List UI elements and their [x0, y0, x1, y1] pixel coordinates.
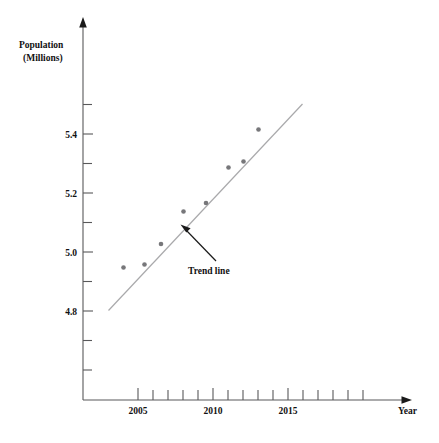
data-point: [241, 159, 246, 164]
annotation-arrowhead: [181, 225, 191, 233]
x-axis-tick-labels: 2005 2010 2015: [129, 406, 298, 416]
y-tick-label-4-8: 4.8: [65, 307, 77, 317]
data-point: [256, 127, 261, 132]
data-point: [159, 242, 164, 247]
y-axis-ticks: [83, 105, 93, 371]
annotation-arrow-shaft: [186, 230, 217, 262]
y-axis-title-line2: (Millions): [23, 53, 63, 64]
population-trend-chart: 5.4 5.2 5.0 4.8 2005 2010 2015 Populatio…: [0, 0, 439, 443]
data-point: [204, 201, 209, 206]
trend-line: [109, 104, 303, 311]
x-tick-label-2015: 2015: [279, 406, 298, 416]
x-tick-label-2005: 2005: [129, 406, 148, 416]
x-axis-title: Year: [398, 406, 418, 416]
data-points: [121, 127, 261, 270]
trend-line-annotation: Trend line: [181, 225, 230, 277]
x-axis-ticks: [138, 388, 363, 400]
x-tick-label-2010: 2010: [204, 406, 223, 416]
data-point: [226, 165, 231, 170]
y-axis-arrowhead: [79, 17, 87, 28]
chart-canvas: 5.4 5.2 5.0 4.8 2005 2010 2015 Populatio…: [0, 0, 439, 443]
x-axis-arrowhead: [402, 396, 413, 404]
y-axis-tick-labels: 5.4 5.2 5.0 4.8: [65, 130, 77, 317]
y-tick-label-5-0: 5.0: [65, 248, 77, 258]
data-point: [121, 265, 126, 270]
y-tick-label-5-2: 5.2: [65, 189, 77, 199]
trend-line-label: Trend line: [188, 266, 230, 276]
y-axis-title-line1: Population: [19, 40, 64, 50]
y-tick-label-5-4: 5.4: [65, 130, 77, 140]
data-point: [142, 262, 147, 267]
data-point: [181, 209, 186, 214]
y-axis: [79, 17, 87, 400]
